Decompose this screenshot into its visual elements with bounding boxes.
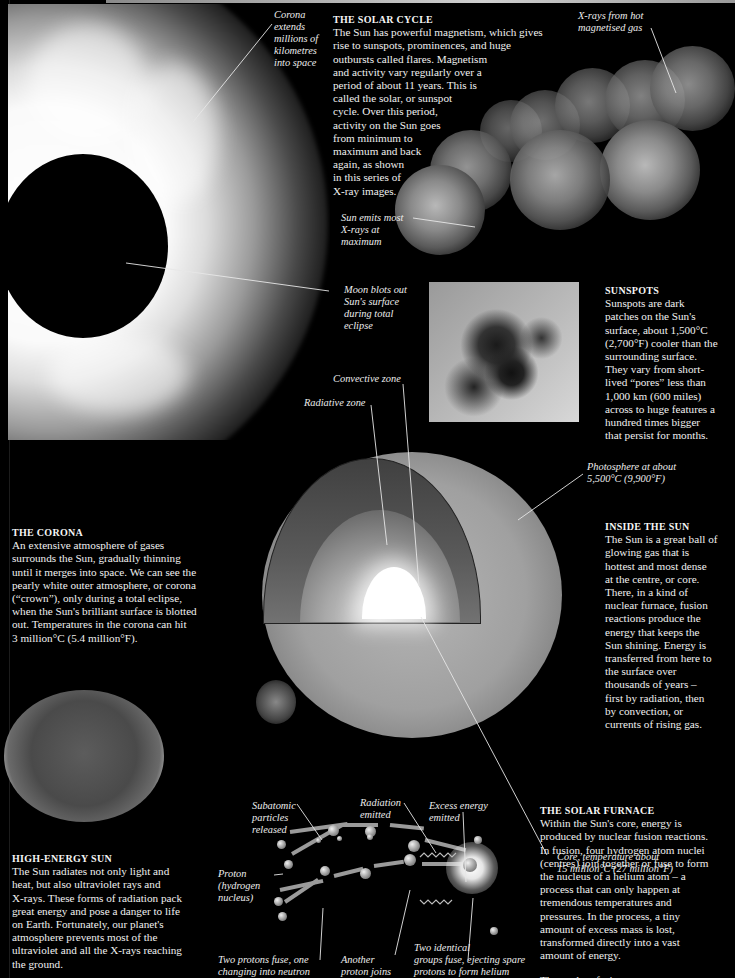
section-heading: THE CORONA — [12, 526, 262, 539]
section-sunspots: SUNSPOTS Sunspots are dark patches on th… — [605, 284, 735, 442]
particle-pair — [320, 866, 330, 876]
particle-group — [360, 868, 371, 879]
body-line: atmosphere prevents most of the — [12, 931, 247, 944]
caption-radiation-emitted: Radiation emitted — [360, 797, 401, 821]
page: Corona extends millions of kilometres in… — [0, 0, 735, 978]
caption-line: eclipse — [344, 320, 407, 332]
body-line: rise to sunspots, prominences, and huge — [333, 39, 613, 52]
section-heading: INSIDE THE SUN — [605, 520, 735, 533]
body-line: amount of energy. — [540, 949, 735, 962]
caption-line: emitted — [429, 812, 488, 824]
body-line: 1,000 km (600 miles) — [605, 390, 735, 403]
body-line: on Earth. Fortunately, our planet's — [12, 918, 247, 931]
caption-another-proton: Another proton joins — [341, 954, 391, 978]
caption-line: Another — [341, 954, 391, 966]
body-line: Within the Sun's core, energy is — [540, 817, 735, 830]
section-heading: THE SOLAR FURNACE — [540, 804, 735, 817]
caption-line: during total — [344, 308, 407, 320]
caption-line: released — [252, 824, 296, 836]
body-line: outbursts called flares. Magnetism — [333, 53, 613, 66]
caption-line: Moon blots out — [344, 284, 407, 296]
high-energy-sun-image — [4, 690, 164, 822]
caption-line: X-rays at — [341, 224, 403, 236]
body-line: period of about 11 years. This is — [333, 79, 613, 92]
body-line: process that can only happen at — [540, 883, 735, 896]
corona-streamer — [48, 334, 188, 414]
caption-subatomic: Subatomic particles released — [252, 800, 296, 836]
body-line: thousands of years – — [605, 678, 735, 691]
body-line: produced by nuclear fusion reactions. — [540, 830, 735, 843]
caption-two-groups: Two identical groups fuse, ejecting spar… — [414, 942, 525, 978]
body-line: great energy and pose a danger to life — [12, 905, 247, 918]
body-line: again, as shown — [333, 158, 613, 171]
caption-excess-energy: Excess energy emitted — [429, 800, 488, 824]
caption-corona-extends: Corona extends millions of kilometres in… — [274, 9, 318, 69]
section-heading: HIGH-ENERGY SUN — [12, 852, 247, 865]
body-line: first by radiation, then — [605, 692, 735, 705]
section-heading: THE SOLAR CYCLE — [333, 13, 613, 26]
caption-moon-blots: Moon blots out Sun's surface during tota… — [344, 284, 407, 332]
body-line: hottest and most dense — [605, 560, 735, 573]
body-line: reactions produce the — [605, 612, 735, 625]
proton — [274, 897, 283, 906]
body-line: the nucleus of a helium atom – a — [540, 870, 735, 883]
body-line: called the solar, or sunspot — [333, 92, 613, 105]
body-line: Sunspots are dark — [605, 297, 735, 310]
section-heading: SUNSPOTS — [605, 284, 735, 297]
caption-line: into space — [274, 57, 318, 69]
arrow — [390, 823, 424, 831]
caption-line: Sun's surface — [344, 296, 407, 308]
body-line: and activity vary regularly over a — [333, 66, 613, 79]
body-line: glowing gas that is — [605, 546, 735, 559]
body-line: in this series of — [333, 171, 613, 184]
body-line: at the centre, or core. — [605, 573, 735, 586]
body-line: surrounds the Sun, gradually thinning — [12, 552, 262, 565]
caption-line: groups fuse, ejecting spare — [414, 954, 525, 966]
proton — [278, 912, 287, 921]
body-line: transferred from here to — [605, 652, 735, 665]
xray-sun — [600, 120, 700, 220]
sunspot-photo — [429, 282, 579, 422]
body-line: An extensive atmosphere of gases — [12, 539, 262, 552]
body-line: The Sun radiates not only light and — [12, 865, 247, 878]
arrow — [374, 860, 404, 868]
body-line: X-rays. These forms of radiation pack — [12, 892, 247, 905]
body-line: cycle. Over this period, — [333, 105, 613, 118]
section-inside-sun: INSIDE THE SUN The Sun is a great ball o… — [605, 520, 735, 731]
caption-photosphere: Photosphere at about 5,500°C (9,900°F) — [587, 461, 676, 485]
body-line: currents of rising gas. — [605, 718, 735, 731]
caption-line: protons to form helium — [414, 966, 525, 978]
body-line: activity on the Sun goes — [333, 119, 613, 132]
caption-line: Corona — [274, 9, 318, 21]
body-line: (“crown”), only during a total eclipse, — [12, 592, 262, 605]
caption-line: kilometres — [274, 45, 318, 57]
proton — [367, 834, 373, 840]
body-line: the ground. — [12, 958, 247, 971]
caption-line: Photosphere at about — [587, 461, 676, 473]
body-line: nuclear furnace, fusion — [605, 599, 735, 612]
body-line: X-ray images. — [333, 185, 613, 198]
spare-proton — [474, 836, 482, 844]
caption-line: emitted — [360, 809, 401, 821]
body-line: lived “pores” less than — [605, 376, 735, 389]
body-line: There, in a kind of — [605, 586, 735, 599]
body-line: from minimum to — [333, 132, 613, 145]
particle-group — [404, 854, 416, 866]
body-line: across to huge features a — [605, 403, 735, 416]
body-line: The Sun is a great ball of — [605, 533, 735, 546]
caption-line: proton joins — [341, 966, 391, 978]
body-line: surrounding surface. — [605, 350, 735, 363]
spare-proton — [490, 927, 498, 935]
body-line: heat, but also ultraviolet rays and — [12, 878, 247, 891]
body-line: They vary from short- — [605, 363, 735, 376]
body-line: transformed directly into a vast — [540, 936, 735, 949]
section-corona: THE CORONA An extensive atmosphere of ga… — [12, 526, 262, 645]
proton — [277, 840, 286, 849]
body-line: hundred times bigger — [605, 416, 735, 429]
proton — [284, 860, 293, 869]
body-line: The Sun has powerful magnetism, which gi… — [333, 26, 613, 39]
body-line: Sun shining. Energy is — [605, 639, 735, 652]
subatomic-particle — [337, 836, 342, 841]
caption-line: particles — [252, 812, 296, 824]
caption-line: maximum — [341, 236, 403, 248]
